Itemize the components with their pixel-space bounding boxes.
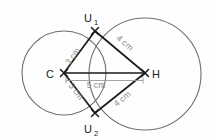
point-label-c: C bbox=[46, 68, 54, 80]
point-label-u2-subscript: 2 bbox=[94, 129, 98, 138]
point-label-u2: U 2 bbox=[84, 123, 98, 138]
vertex-marker-u2 bbox=[92, 110, 99, 117]
point-label-u1-subscript: 1 bbox=[94, 18, 98, 27]
point-label-u2-letter: U bbox=[84, 123, 92, 135]
point-label-u1-letter: U bbox=[84, 12, 92, 24]
point-label-u1: U 1 bbox=[84, 12, 98, 27]
geometry-diagram: C H U 1 U 2 3 cm 4 cm 3 cm 4 cm 5 cm bbox=[0, 0, 213, 140]
diagram-canvas: C H U 1 U 2 3 cm 4 cm 3 cm 4 cm 5 cm bbox=[0, 0, 213, 140]
length-label-c-h: 5 cm bbox=[87, 80, 106, 90]
point-label-h: H bbox=[152, 68, 160, 80]
vertex-marker-u1 bbox=[92, 28, 99, 35]
length-label-u2-h: 4 cm bbox=[112, 89, 133, 109]
length-label-c-u1: 3 cm bbox=[63, 46, 82, 67]
